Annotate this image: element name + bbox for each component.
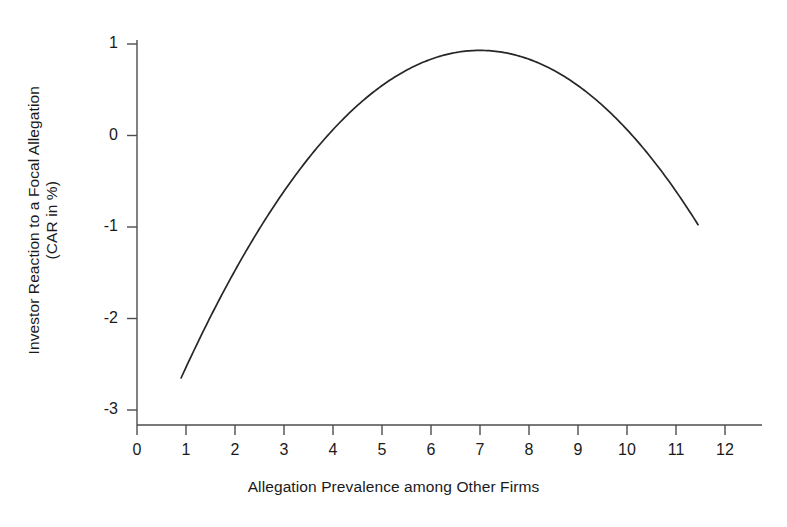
x-axis-title: Allegation Prevalence among Other Firms bbox=[248, 478, 540, 496]
y-axis-ticks bbox=[127, 44, 137, 410]
y-axis-title-rotated: Investor Reaction to a Focal Allegation … bbox=[25, 86, 62, 354]
data-curve-quadratic bbox=[181, 50, 698, 378]
x-tick-label-7: 7 bbox=[460, 441, 500, 459]
x-tick-label-5: 5 bbox=[362, 441, 402, 459]
y-axis-title-line1: Investor Reaction to a Focal Allegation bbox=[25, 86, 43, 354]
x-tick-label-12: 12 bbox=[705, 441, 745, 459]
x-tick-label-6: 6 bbox=[411, 441, 451, 459]
x-tick-label-4: 4 bbox=[313, 441, 353, 459]
x-axis-ticks bbox=[137, 425, 725, 435]
x-tick-label-8: 8 bbox=[509, 441, 549, 459]
x-axis-title-wrap: Allegation Prevalence among Other Firms bbox=[0, 478, 787, 496]
x-tick-label-0: 0 bbox=[117, 441, 157, 459]
x-tick-label-11: 11 bbox=[656, 441, 696, 459]
x-tick-label-10: 10 bbox=[607, 441, 647, 459]
chart-figure: 1 0 -1 -2 -3 0 1 2 3 4 5 6 7 8 9 10 11 1… bbox=[0, 0, 787, 527]
x-tick-label-1: 1 bbox=[166, 441, 206, 459]
y-axis-title-wrap: Investor Reaction to a Focal Allegation … bbox=[0, 0, 86, 440]
x-tick-label-2: 2 bbox=[215, 441, 255, 459]
x-tick-label-3: 3 bbox=[264, 441, 304, 459]
y-axis-title-line2: (CAR in %) bbox=[43, 86, 61, 354]
x-tick-label-9: 9 bbox=[558, 441, 598, 459]
